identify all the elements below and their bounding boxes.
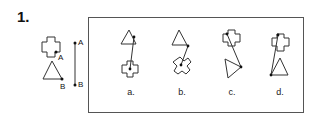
option-c-label[interactable]: c. (228, 87, 235, 97)
option-b-label[interactable]: b. (178, 87, 186, 97)
option-d-figure[interactable] (270, 34, 289, 77)
option-c-figure[interactable] (223, 30, 242, 78)
options-figures (0, 0, 318, 117)
option-a-figure[interactable] (121, 30, 138, 77)
option-b-figure[interactable] (172, 30, 191, 74)
option-a-label[interactable]: a. (127, 87, 135, 97)
option-d-label[interactable]: d. (276, 87, 284, 97)
